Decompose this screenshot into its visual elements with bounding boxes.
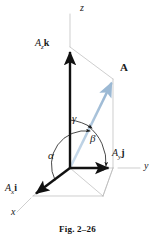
y-component-unit-vector: j <box>121 147 124 158</box>
angle-gamma-label: γ <box>72 113 76 124</box>
x-axis-extension <box>17 198 31 212</box>
x-component-unit-vector: i <box>14 182 17 193</box>
y-axis-label: y <box>144 161 148 171</box>
x-component-label: Axi <box>5 183 17 196</box>
z-component-unit-vector: k <box>44 37 50 48</box>
vector-diagram <box>0 0 155 239</box>
figure-caption: Fig. 2–26 <box>0 224 155 234</box>
angle-alpha-label: α <box>48 150 54 161</box>
z-axis-label: z <box>80 3 84 13</box>
z-component-label: Azk <box>35 38 49 51</box>
y-component-label: Ayj <box>112 148 125 161</box>
construction-ztip-to-vector-tip <box>70 47 113 79</box>
vector-Ax-i-arrow <box>36 168 70 194</box>
x-axis-label: x <box>11 207 15 217</box>
figure-container: z Azk A γ β α Ayj y Axi x Fig. 2–26 <box>0 0 155 239</box>
base-diagonal-origin-to-projection <box>70 168 103 196</box>
resultant-vector-label: A <box>120 62 128 73</box>
dropline-base-to-projection <box>103 168 113 196</box>
angle-beta-label: β <box>90 133 95 144</box>
